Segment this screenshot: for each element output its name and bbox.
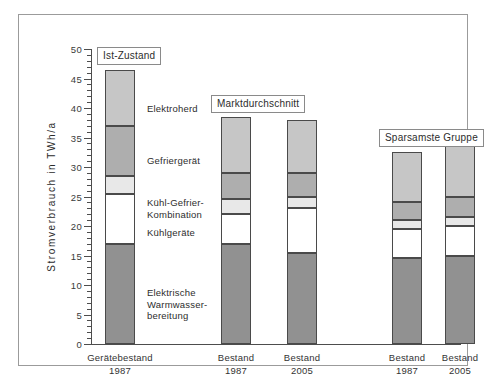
x-axis-line	[91, 344, 461, 345]
y-tick-major	[84, 256, 91, 257]
y-tick-minor	[87, 338, 91, 339]
y-tick-label: 5	[76, 309, 82, 320]
category-label-line1: Bestand	[247, 352, 357, 365]
bar-5[interactable]	[445, 149, 475, 344]
y-tick-minor	[87, 191, 91, 192]
y-tick-major	[84, 138, 91, 139]
y-tick-minor	[87, 179, 91, 180]
bar-segment[interactable]	[287, 173, 317, 197]
plot-area: 05101520253035404550 ElektroherdGefrierg…	[91, 49, 479, 344]
y-tick-minor	[87, 73, 91, 74]
bar-segment[interactable]	[287, 197, 317, 209]
bar-segment[interactable]	[105, 176, 135, 194]
bar-segment[interactable]	[445, 217, 475, 226]
bar-segment[interactable]	[287, 253, 317, 344]
category-label-line1: Bestand	[405, 352, 486, 365]
y-tick-minor	[87, 208, 91, 209]
chart-figure: Stromverbrauch in TWh/a 0510152025303540…	[0, 0, 486, 382]
bar-3[interactable]	[287, 120, 317, 344]
bar-segment[interactable]	[445, 226, 475, 256]
y-tick-minor	[87, 185, 91, 186]
y-tick-label: 10	[71, 280, 82, 291]
y-tick-minor	[87, 120, 91, 121]
y-tick-label: 50	[71, 44, 82, 55]
y-tick-minor	[87, 279, 91, 280]
y-tick-minor	[87, 332, 91, 333]
y-tick-label: 20	[71, 221, 82, 232]
y-tick-minor	[87, 232, 91, 233]
bar-segment[interactable]	[392, 258, 422, 344]
category-label: Bestand2005	[405, 352, 486, 377]
bar-1[interactable]	[105, 70, 135, 344]
bar-2[interactable]	[221, 117, 251, 344]
y-tick-minor	[87, 202, 91, 203]
y-tick-major	[84, 197, 91, 198]
y-tick-major	[84, 108, 91, 109]
bar-segment[interactable]	[105, 70, 135, 126]
bar-segment[interactable]	[392, 202, 422, 220]
y-tick-minor	[87, 61, 91, 62]
bar-segment[interactable]	[392, 229, 422, 259]
y-tick-label: 35	[71, 132, 82, 143]
bar-4[interactable]	[392, 152, 422, 344]
y-tick-minor	[87, 297, 91, 298]
bar-segment[interactable]	[392, 220, 422, 229]
category-label-line1: Gerätebestand	[65, 352, 175, 365]
chart-frame: Stromverbrauch in TWh/a 0510152025303540…	[18, 14, 468, 366]
y-tick-label: 0	[76, 339, 82, 350]
bar-segment[interactable]	[221, 199, 251, 214]
y-tick-minor	[87, 244, 91, 245]
y-tick-minor	[87, 309, 91, 310]
y-tick-label: 40	[71, 103, 82, 114]
bar-segment[interactable]	[105, 194, 135, 244]
y-tick-minor	[87, 149, 91, 150]
y-tick-minor	[87, 220, 91, 221]
y-tick-minor	[87, 238, 91, 239]
bar-segment[interactable]	[221, 214, 251, 244]
bar-segment[interactable]	[221, 117, 251, 173]
y-tick-minor	[87, 84, 91, 85]
y-axis-title-text: Stromverbrauch in TWh/a	[46, 121, 57, 272]
y-tick-major	[84, 344, 91, 345]
y-tick-major	[84, 315, 91, 316]
group-annotation: Marktdurchschnitt	[211, 95, 305, 113]
y-tick-minor	[87, 173, 91, 174]
y-tick-minor	[87, 250, 91, 251]
bar-segment[interactable]	[287, 120, 317, 173]
bar-segment[interactable]	[287, 208, 317, 252]
segment-label: Kühlgeräte	[147, 227, 195, 239]
segment-label: Gefriergerät	[147, 155, 200, 167]
y-tick-label: 30	[71, 162, 82, 173]
y-tick-minor	[87, 90, 91, 91]
y-tick-major	[84, 49, 91, 50]
y-tick-label: 15	[71, 250, 82, 261]
y-tick-major	[84, 167, 91, 168]
y-tick-minor	[87, 132, 91, 133]
bar-segment[interactable]	[221, 244, 251, 344]
y-tick-minor	[87, 161, 91, 162]
y-axis-line	[91, 49, 92, 345]
segment-label: Elektrische Warmwasser- bereitung	[147, 287, 207, 322]
bar-segment[interactable]	[445, 197, 475, 218]
y-tick-label: 25	[71, 191, 82, 202]
bar-segment[interactable]	[105, 244, 135, 344]
segment-label: Kühl-Gefrier- Kombination	[147, 197, 204, 220]
y-axis-title: Stromverbrauch in TWh/a	[43, 49, 59, 344]
category-label: Gerätebestand1987	[65, 352, 175, 377]
y-tick-minor	[87, 102, 91, 103]
category-label-line2: 2005	[405, 365, 486, 378]
y-tick-minor	[87, 326, 91, 327]
segment-label: Elektroherd	[147, 103, 198, 115]
bar-segment[interactable]	[445, 256, 475, 345]
y-tick-major	[84, 226, 91, 227]
y-tick-minor	[87, 320, 91, 321]
y-tick-minor	[87, 261, 91, 262]
bar-segment[interactable]	[221, 173, 251, 200]
group-annotation: Sparsamste Gruppe	[379, 129, 484, 147]
bar-segment[interactable]	[105, 126, 135, 176]
bar-segment[interactable]	[445, 143, 475, 196]
y-tick-minor	[87, 143, 91, 144]
y-tick-minor	[87, 126, 91, 127]
y-tick-label: 45	[71, 73, 82, 84]
bar-segment[interactable]	[392, 152, 422, 202]
